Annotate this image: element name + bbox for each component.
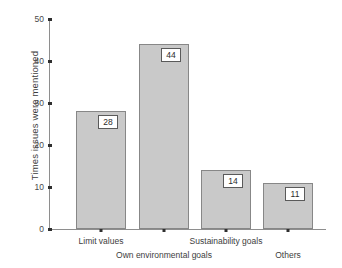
y-axis-tick-mark bbox=[48, 18, 52, 21]
y-axis-tick-label: 40 bbox=[35, 56, 44, 66]
y-axis-tick-label: 20 bbox=[35, 140, 44, 150]
plot-area: 01020304050 28441411 bbox=[49, 18, 326, 231]
bar-value-label: 11 bbox=[285, 187, 305, 201]
y-axis-tick-mark bbox=[48, 228, 52, 231]
x-axis-category-label: Own environmental goals bbox=[116, 250, 212, 260]
bar-value-label: 28 bbox=[98, 115, 118, 129]
bar-value-label: 44 bbox=[161, 48, 181, 62]
x-axis-category-label: Limit values bbox=[79, 236, 124, 246]
x-axis-category-label: Others bbox=[275, 250, 301, 260]
bar-chart: Times issues were mentioned 01020304050 … bbox=[0, 0, 342, 268]
x-axis-tick-mark bbox=[100, 229, 103, 232]
x-axis-line bbox=[49, 229, 326, 230]
y-axis-tick-label: 10 bbox=[35, 182, 44, 192]
y-axis-line bbox=[49, 18, 50, 230]
y-axis-tick-mark bbox=[48, 102, 52, 105]
x-axis-category-label: Sustainability goals bbox=[190, 236, 263, 246]
x-axis-tick-mark bbox=[287, 229, 290, 232]
y-axis-tick-mark bbox=[48, 186, 52, 189]
y-axis-tick-label: 0 bbox=[39, 224, 44, 234]
y-axis-tick-label: 50 bbox=[35, 14, 44, 24]
y-axis-tick-mark bbox=[48, 60, 52, 63]
bar bbox=[139, 44, 189, 229]
x-axis-tick-mark bbox=[225, 229, 228, 232]
x-axis-tick-mark bbox=[163, 229, 166, 232]
y-axis-tick-mark bbox=[48, 144, 52, 147]
y-axis-tick-label: 30 bbox=[35, 98, 44, 108]
bar-value-label: 14 bbox=[223, 174, 243, 188]
